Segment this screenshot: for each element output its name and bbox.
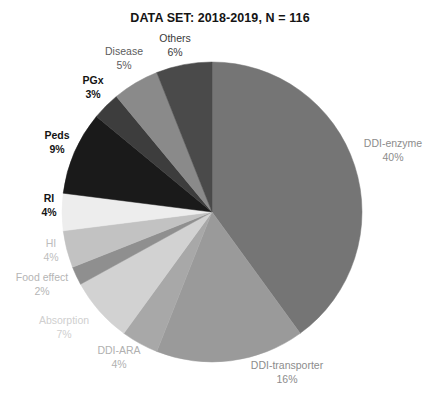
pie-label-peds: Peds9%: [44, 129, 69, 156]
pie-label-name: HI: [43, 237, 58, 251]
pie-label-value: 4%: [41, 205, 56, 219]
pie-label-ddi-transporter: DDI-transporter16%: [251, 359, 323, 386]
pie-label-value: 6%: [159, 45, 191, 59]
pie-label-name: Absorption: [39, 314, 89, 328]
pie-label-name: Peds: [44, 129, 69, 143]
pie-label-name: Others: [159, 32, 191, 46]
pie-label-pgx: PGx3%: [82, 74, 103, 101]
pie-label-value: 2%: [16, 284, 68, 298]
pie-label-ddi-enzyme: DDI-enzyme40%: [364, 137, 422, 164]
pie-slice-group: [62, 62, 362, 362]
pie-label-name: PGx: [82, 74, 103, 88]
pie-label-name: Food effect: [16, 271, 68, 285]
pie-label-value: 5%: [105, 58, 143, 72]
pie-label-name: DDI-ARA: [97, 344, 140, 358]
pie-label-name: Disease: [105, 45, 143, 59]
pie-label-value: 4%: [43, 250, 58, 264]
pie-label-value: 7%: [39, 327, 89, 341]
pie-label-value: 9%: [44, 142, 69, 156]
pie-label-ddi-ara: DDI-ARA4%: [97, 344, 140, 371]
pie-chart: [0, 0, 440, 402]
pie-label-ri: RI4%: [41, 192, 56, 219]
pie-label-others: Others6%: [159, 32, 191, 59]
pie-label-food-effect: Food effect2%: [16, 271, 68, 298]
pie-label-value: 4%: [97, 357, 140, 371]
pie-label-value: 3%: [82, 87, 103, 101]
chart-page: DATA SET: 2018-2019, N = 116 DDI-enzyme4…: [0, 0, 440, 402]
pie-label-value: 16%: [251, 372, 323, 386]
pie-label-disease: Disease5%: [105, 45, 143, 72]
pie-label-absorption: Absorption7%: [39, 314, 89, 341]
pie-label-name: RI: [41, 192, 56, 206]
pie-label-hi: HI4%: [43, 237, 58, 264]
pie-label-value: 40%: [364, 150, 422, 164]
pie-label-name: DDI-transporter: [251, 359, 323, 373]
pie-label-name: DDI-enzyme: [364, 137, 422, 151]
